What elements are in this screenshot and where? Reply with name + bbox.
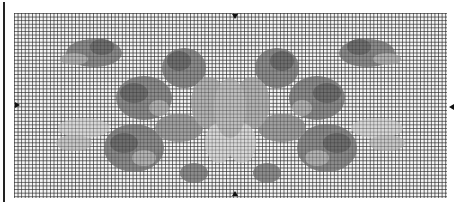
center-marker-left-icon (15, 102, 20, 108)
cross-stitch-chart (14, 13, 447, 198)
center-marker-right-icon (449, 104, 454, 110)
left-flower-cluster (56, 39, 233, 183)
floral-motif (14, 13, 447, 198)
page-border-line (3, 2, 5, 202)
center-marker-bottom-icon (232, 191, 238, 196)
center-marker-top-icon (232, 14, 238, 19)
right-flower-cluster (228, 39, 405, 183)
